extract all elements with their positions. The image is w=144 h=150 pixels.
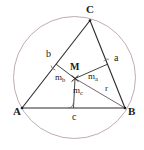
right-angle-at-c-mark xyxy=(68,103,73,108)
bisector-label-mc-base: m xyxy=(73,85,80,95)
side-label-a: a xyxy=(114,52,119,63)
svg-text:mb: mb xyxy=(55,72,65,83)
bisector-label-mb-sub: b xyxy=(62,76,65,83)
bisector-label-mc: mc xyxy=(73,85,83,96)
side-label-b: b xyxy=(46,48,51,59)
bisector-label-mc-sub: c xyxy=(80,89,83,96)
geometry-diagram: A B C M a b c ma mb mc r xyxy=(0,0,144,150)
circumcenter-label-M: M xyxy=(70,61,80,72)
vertex-A-dot xyxy=(21,107,24,110)
vertex-label-C: C xyxy=(86,3,94,15)
bisector-label-mb: mb xyxy=(55,72,65,83)
vertex-B-dot xyxy=(124,107,127,110)
vertex-C-dot xyxy=(89,19,92,22)
vertex-label-B: B xyxy=(128,105,136,117)
radius-label-r: r xyxy=(105,83,108,93)
bisector-label-ma-base: m xyxy=(88,71,95,81)
vertex-label-A: A xyxy=(13,105,21,117)
bisector-label-ma-sub: a xyxy=(95,75,98,82)
side-label-c: c xyxy=(72,111,77,122)
bisector-label-mb-base: m xyxy=(55,72,62,82)
svg-text:ma: ma xyxy=(88,71,98,82)
svg-text:mc: mc xyxy=(73,85,83,96)
geometry-canvas: A B C M a b c ma mb mc r xyxy=(0,0,144,150)
bisector-label-ma: ma xyxy=(88,71,98,82)
